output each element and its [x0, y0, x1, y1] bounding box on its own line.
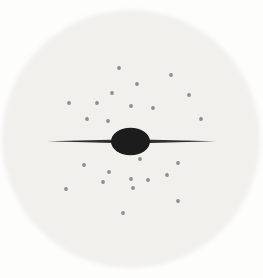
galaxy-halo-diagram: [0, 0, 263, 278]
cluster-dot: [129, 104, 133, 108]
cluster-dot: [187, 93, 191, 97]
cluster-dot: [138, 157, 142, 161]
cluster-dot: [117, 66, 121, 70]
cluster-dot: [101, 180, 105, 184]
cluster-dot: [64, 187, 68, 191]
cluster-dot: [169, 73, 173, 77]
central-bulge: [111, 128, 150, 156]
cluster-dot: [135, 82, 139, 86]
cluster-dot: [95, 101, 99, 105]
cluster-dot: [82, 163, 86, 167]
cluster-dot: [110, 91, 114, 95]
cluster-dot: [176, 199, 180, 203]
cluster-dot: [121, 211, 125, 215]
cluster-dot: [106, 119, 110, 123]
diagram-stage: [0, 0, 263, 278]
cluster-dot: [107, 170, 111, 174]
cluster-dot: [151, 106, 155, 110]
cluster-dot: [131, 186, 135, 190]
cluster-dot: [165, 173, 169, 177]
cluster-dot: [85, 117, 89, 121]
cluster-dot: [199, 117, 203, 121]
cluster-dot: [176, 161, 180, 165]
cluster-dot: [129, 177, 133, 181]
cluster-dot: [146, 178, 150, 182]
cluster-dot: [67, 101, 71, 105]
